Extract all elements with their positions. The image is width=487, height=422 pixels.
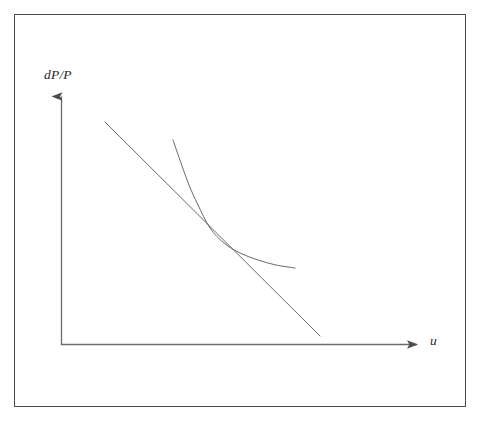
tangent-line [105,122,320,336]
plot-canvas [0,0,487,422]
y-axis-label: dP/P [44,68,72,82]
x-axis-label: u [430,334,437,348]
figure-page: dP/P u [0,0,487,422]
phillips-curve [173,140,295,268]
